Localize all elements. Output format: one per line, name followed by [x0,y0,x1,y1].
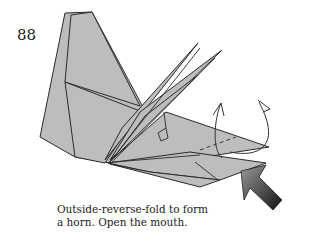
caption-line-2: a horn. Open the mouth. [57,216,267,229]
caption-line-1: Outside-reverse-fold to form [57,203,267,216]
paper-model [40,12,269,187]
step-caption: Outside-reverse-fold to form a horn. Ope… [57,203,267,229]
